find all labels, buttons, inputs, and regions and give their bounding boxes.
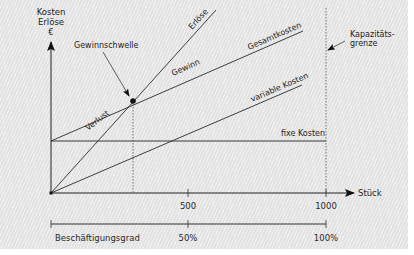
origin-point <box>50 192 53 195</box>
variable-costs-line <box>51 85 302 193</box>
x-axis-label: Stück <box>358 188 382 198</box>
breakeven-point <box>130 98 136 104</box>
loss-region-label: Verlust <box>84 108 111 132</box>
utilization-tick-label-50: 50% <box>179 233 198 243</box>
variable-costs-label: variable Kosten <box>249 71 309 104</box>
breakeven-pointer-arrow <box>103 52 129 96</box>
total-costs-label: Gesamtkosten <box>246 21 302 52</box>
fixed-costs-label: fixe Kosten <box>281 129 325 138</box>
capacity-label-line2: grenze <box>350 39 377 48</box>
x-tick-label-1000: 1000 <box>315 201 337 211</box>
capacity-label-line1: Kapazitäts- <box>350 30 395 39</box>
revenue-label: Erlöse <box>187 7 210 31</box>
break-even-diagram: Kosten Erlöse € Stück Kapazitäts- grenze… <box>0 0 414 255</box>
utilization-axis-label: Beschäftigungsgrad <box>55 233 140 243</box>
y-axis-label-line3: € <box>48 27 53 37</box>
profit-region-label: Gewinn <box>170 57 201 77</box>
x-tick-label-500: 500 <box>180 201 196 211</box>
y-axis-label-line2: Erlöse <box>38 17 64 27</box>
breakeven-label: Gewinnschwelle <box>74 41 139 50</box>
capacity-pointer-arrow <box>328 41 345 50</box>
utilization-tick-label-100: 100% <box>314 233 338 243</box>
y-axis-label-line1: Kosten <box>37 7 66 17</box>
